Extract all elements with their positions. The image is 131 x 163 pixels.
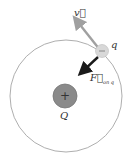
force-symbol: F⃗ bbox=[90, 72, 103, 83]
plus-sign: + bbox=[60, 89, 70, 103]
force-label: F⃗on q bbox=[90, 73, 114, 85]
velocity-arrow bbox=[77, 21, 100, 50]
force-arrow bbox=[83, 57, 98, 71]
orbiting-charge-label: q bbox=[111, 40, 117, 50]
coulomb-orbit-diagram: + v⃗ q F⃗on q Q bbox=[0, 0, 131, 163]
velocity-label: v⃗ bbox=[74, 8, 86, 18]
force-subscript: on q bbox=[103, 79, 114, 85]
central-charge-label: Q bbox=[60, 111, 68, 121]
